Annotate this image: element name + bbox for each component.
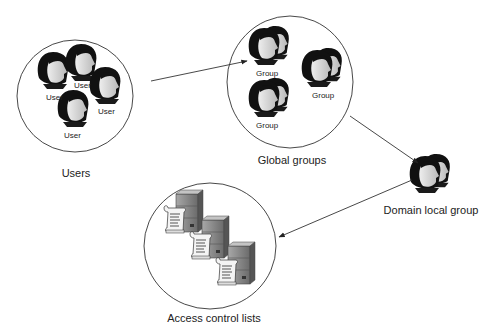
- arrow-global-to-domain-local: [350, 116, 418, 163]
- user-icon: [38, 52, 69, 89]
- group-label: Group: [256, 69, 279, 78]
- user-label: User: [74, 81, 91, 90]
- group-label: Group: [256, 121, 279, 130]
- group-icon: [249, 26, 289, 65]
- domain-local-group-title: Domain local group: [384, 204, 479, 216]
- acl-title: Access control lists: [167, 312, 261, 324]
- users-node: User User User User Users: [17, 40, 133, 179]
- global-groups-circle: [227, 16, 353, 148]
- group-icon: [249, 78, 289, 117]
- domain-local-group-node: Domain local group: [384, 154, 479, 216]
- user-label: User: [98, 107, 115, 116]
- users-title: Users: [62, 167, 91, 179]
- domain-local-group-icon: [410, 154, 450, 193]
- arrow-users-to-global: [151, 61, 247, 81]
- acl-node: Access control lists: [144, 183, 276, 324]
- global-groups-node: Group Group Group Global groups: [227, 16, 353, 166]
- user-label: User: [64, 131, 81, 140]
- global-groups-title: Global groups: [258, 154, 327, 166]
- user-icon: [90, 67, 121, 104]
- user-label: User: [46, 93, 63, 102]
- group-label: Group: [312, 91, 335, 100]
- group-icon: [302, 48, 342, 87]
- diagram-canvas: User User User User Users Group Group Gr…: [0, 0, 491, 327]
